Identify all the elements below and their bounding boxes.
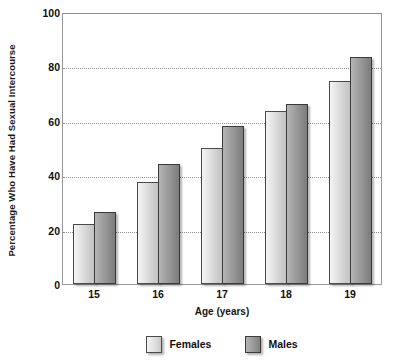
legend-label: Females: [169, 338, 211, 350]
bar-males-17: [222, 126, 244, 284]
bar-males-16: [158, 164, 180, 284]
y-axis-tick-label: 40: [26, 170, 60, 182]
bar-group: [265, 104, 309, 284]
y-axis-tick-label: 100: [26, 7, 60, 19]
y-axis-title-text: Percentage Who Have Had Sexual Intercour…: [6, 44, 17, 256]
bar-group: [73, 212, 117, 284]
bar-females-17: [201, 148, 223, 284]
bar-group: [137, 164, 181, 284]
bar-group: [201, 126, 245, 284]
chart-legend: FemalesMales: [62, 331, 382, 357]
y-axis-tick-labels: 020406080100: [22, 0, 60, 362]
x-axis-tick-label: 16: [152, 288, 164, 300]
x-axis-tick-label: 18: [280, 288, 292, 300]
y-axis-title: Percentage Who Have Had Sexual Intercour…: [0, 0, 22, 300]
plot-inner: [63, 14, 381, 284]
y-axis-tick-label: 20: [26, 225, 60, 237]
bar-group: [329, 57, 373, 284]
female-swatch: [146, 336, 162, 353]
bar-males-18: [286, 104, 308, 284]
bar-females-18: [265, 111, 287, 284]
y-axis-tick-label: 0: [26, 279, 60, 291]
x-axis-tick-labels: 1516171819: [62, 288, 382, 304]
plot-area: [62, 13, 382, 285]
x-axis-tick-label: 15: [88, 288, 100, 300]
bar-females-16: [137, 182, 159, 284]
x-axis-title: Age (years): [62, 306, 382, 317]
bar-females-19: [329, 81, 351, 284]
legend-item: Males: [245, 336, 297, 353]
bar-females-15: [73, 224, 95, 284]
y-axis-tick-label: 60: [26, 116, 60, 128]
legend-label: Males: [268, 338, 297, 350]
x-axis-tick-label: 19: [344, 288, 356, 300]
y-axis-tick-label: 80: [26, 61, 60, 73]
bar-chart-figure: Percentage Who Have Had Sexual Intercour…: [0, 0, 397, 362]
bar-males-19: [350, 57, 372, 284]
legend-item: Females: [146, 336, 211, 353]
x-axis-tick-label: 17: [216, 288, 228, 300]
bar-males-15: [94, 212, 116, 284]
male-swatch: [245, 336, 261, 353]
